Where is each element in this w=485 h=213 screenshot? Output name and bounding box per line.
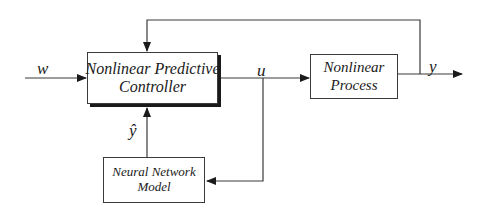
model-label-line2: Model (137, 180, 170, 195)
control-block-diagram: Nonlinear Predictive Controller Nonlinea… (0, 0, 485, 213)
connection-lines (0, 0, 485, 213)
controller-block: Nonlinear Predictive Controller (87, 52, 218, 104)
neural-network-model-block: Neural Network Model (103, 157, 205, 203)
controller-label-line1: Nonlinear Predictive (85, 60, 219, 78)
process-label-line2: Process (331, 77, 378, 94)
process-block: Nonlinear Process (310, 54, 398, 99)
controller-label-line2: Controller (119, 78, 186, 96)
predicted-output-label: ŷ (129, 122, 137, 139)
control-signal-label: u (257, 62, 266, 79)
process-label-line1: Nonlinear (324, 59, 385, 76)
output-signal-label: y (429, 58, 437, 75)
model-label-line1: Neural Network (112, 165, 195, 180)
reference-signal-label: w (37, 60, 48, 77)
